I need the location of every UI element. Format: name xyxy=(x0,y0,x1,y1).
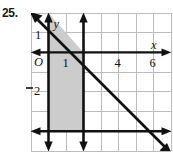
x-tick-label-4: 4 xyxy=(115,56,122,70)
x-tick-label-6: 6 xyxy=(150,56,156,70)
coordinate-graph: y x O 1 2 1 4 6 xyxy=(0,0,173,155)
x-tick-label-1: 1 xyxy=(63,56,69,70)
y-tick-label-minus-2: 2 xyxy=(34,84,40,98)
problem-number: 25. xyxy=(2,7,18,19)
y-tick-label-1: 1 xyxy=(35,28,41,42)
y-axis-label: y xyxy=(52,17,60,31)
x-axis-label: x xyxy=(150,38,157,52)
graph-figure: 25. xyxy=(0,0,173,155)
origin-label: O xyxy=(34,55,43,69)
